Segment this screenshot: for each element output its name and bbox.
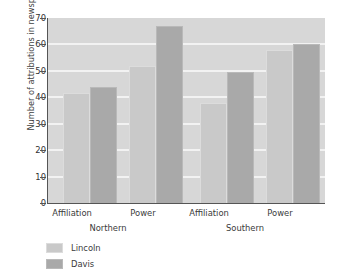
x-label-southern-affiliation: Affiliation <box>179 208 239 218</box>
legend-swatch-davis <box>46 259 63 269</box>
chart-legend: Lincoln Davis <box>46 241 101 273</box>
x-label-northern-power: Power <box>113 208 173 218</box>
x-label-northern-affiliation: Affiliation <box>42 208 102 218</box>
x-axis-line <box>47 203 325 204</box>
y-tick-mark-60 <box>40 44 46 45</box>
bar-southern-affiliation-lincoln <box>200 103 227 203</box>
bar-chart-figure: Number of attributions in newspaper stor… <box>0 0 338 277</box>
y-tick-mark-50 <box>40 71 46 72</box>
bar-northern-affiliation-lincoln <box>63 93 90 203</box>
bar-southern-affiliation-davis <box>227 72 254 203</box>
bar-northern-power-davis <box>156 26 183 203</box>
x-group-label-northern: Northern <box>75 223 141 233</box>
gridline-60 <box>48 43 325 45</box>
y-tick-mark-40 <box>40 97 46 98</box>
legend-swatch-lincoln <box>46 243 63 253</box>
bar-southern-power-lincoln <box>266 50 293 203</box>
y-tick-mark-20 <box>40 150 46 151</box>
y-tick-mark-70 <box>40 18 46 19</box>
bar-northern-affiliation-davis <box>90 87 117 203</box>
bar-southern-power-davis <box>293 44 320 203</box>
legend-label-davis: Davis <box>71 259 94 269</box>
x-label-southern-power: Power <box>250 208 310 218</box>
y-tick-mark-10 <box>40 177 46 178</box>
legend-label-lincoln: Lincoln <box>71 243 101 253</box>
legend-item-davis: Davis <box>46 257 101 270</box>
y-tick-mark-0 <box>40 203 46 204</box>
plot-area <box>48 18 325 203</box>
x-group-label-southern: Southern <box>212 223 278 233</box>
y-axis-line <box>47 18 48 204</box>
legend-item-lincoln: Lincoln <box>46 241 101 254</box>
y-tick-mark-30 <box>40 124 46 125</box>
bar-northern-power-lincoln <box>129 66 156 203</box>
